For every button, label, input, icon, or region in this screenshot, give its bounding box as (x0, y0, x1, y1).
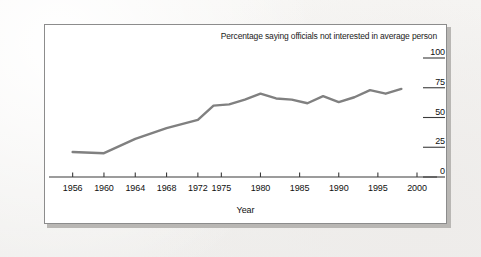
y-axis-tick-label: 50 (419, 107, 445, 117)
x-axis-tick-label: 1985 (283, 183, 317, 193)
x-axis-tick-label: 1990 (322, 183, 356, 193)
y-axis-tick-label: 100 (419, 47, 445, 57)
x-axis-tick-label: 1975 (204, 183, 238, 193)
line-chart-plot (45, 25, 448, 225)
chart-series (73, 89, 402, 153)
x-axis-tick-label: 1968 (150, 183, 184, 193)
x-axis-tick-label: 1995 (361, 183, 395, 193)
x-axis-tick-label: 2000 (400, 183, 434, 193)
x-axis-tick-label: 1960 (87, 183, 121, 193)
chart-axes (49, 58, 445, 177)
data-line (73, 89, 402, 153)
y-axis-tick-label: 0 (419, 166, 445, 176)
chart-panel: Percentage saying officials not interest… (44, 24, 447, 224)
y-axis-tick-label: 75 (419, 77, 445, 87)
x-axis-tick-label: 1956 (56, 183, 90, 193)
y-axis-tick-label: 25 (419, 136, 445, 146)
x-axis-tick-label: 1964 (118, 183, 152, 193)
x-axis-title: Year (45, 205, 446, 215)
x-axis-tick-label: 1980 (243, 183, 277, 193)
